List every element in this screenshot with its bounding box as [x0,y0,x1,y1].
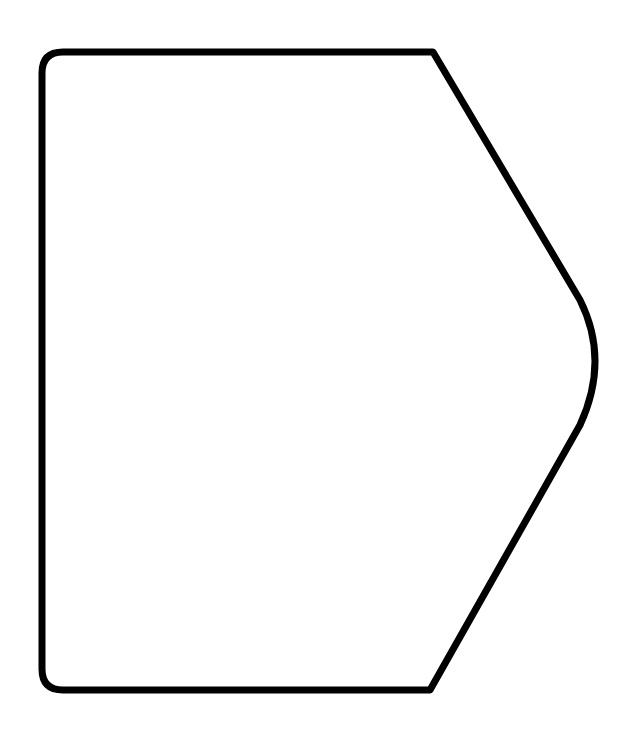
pentagon-shape [0,0,640,734]
diagram-canvas [0,0,640,734]
shape-outline [42,52,595,690]
